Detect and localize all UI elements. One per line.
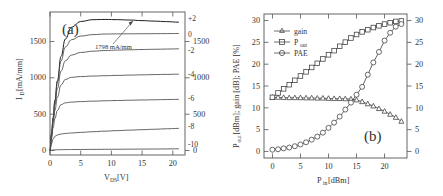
panel-a-annotation: 1798 mA/mm xyxy=(95,43,133,50)
panel-b: 0 5 10 15 20 051015202530 051015202530 g… xyxy=(222,0,443,196)
curve-label-vgs-minus10: -10 xyxy=(188,140,198,149)
circle-marker xyxy=(276,147,281,152)
panel-b-yticklabel-right-2: 10 xyxy=(415,104,423,113)
curve-label-vgs-minus4: -4 xyxy=(188,70,195,79)
square-marker xyxy=(343,40,348,45)
panel-a-xaxis-label: V DS [V] xyxy=(104,173,129,183)
panel-b-yaxis-p: P xyxy=(232,143,241,148)
square-marker xyxy=(270,95,275,100)
panel-a-label: (a) xyxy=(62,21,79,38)
panel-a-xtick-4: 20 xyxy=(169,159,177,168)
panel-a-xtick-1: 5 xyxy=(79,159,83,168)
panel-b-yaxis-rest: [dBm]; gain [dB]; PAE [%] xyxy=(232,44,241,134)
panel-b-xtick-4: 20 xyxy=(380,162,388,171)
square-marker xyxy=(360,30,365,35)
panel-b-yticklabel-left-4: 20 xyxy=(252,60,260,69)
panel-a-ytick-1: 500 xyxy=(34,110,46,119)
square-marker xyxy=(287,82,292,87)
circle-marker xyxy=(399,22,404,27)
circle-marker xyxy=(360,84,365,89)
square-marker xyxy=(377,23,382,28)
circle-marker xyxy=(326,125,331,130)
panel-b-yticklabel-left-0: 0 xyxy=(256,147,260,156)
panel-b-yticklabel-right-6: 30 xyxy=(415,16,423,25)
legend-label-pout: P xyxy=(294,38,298,47)
square-marker xyxy=(354,32,359,37)
panel-a-ytick-right-1: 500 xyxy=(193,110,205,119)
curve-label-vgs-0: 0 xyxy=(188,30,192,39)
square-marker xyxy=(293,78,298,83)
panel-b-xtick-1: 5 xyxy=(298,162,302,171)
circle-marker xyxy=(348,100,353,105)
panel-b-xaxis-main: P xyxy=(317,176,322,185)
square-marker xyxy=(326,53,331,58)
square-marker xyxy=(309,65,314,70)
panel-b-yticklabel-right-3: 15 xyxy=(415,82,423,91)
panel-a-yaxis-unit: [mA/mm] xyxy=(15,58,24,91)
circle-marker xyxy=(382,38,387,43)
panel-a-xaxis-unit: [V] xyxy=(117,173,129,182)
square-marker xyxy=(365,27,370,32)
square-marker xyxy=(349,36,354,41)
square-marker xyxy=(332,48,337,53)
panel-a-ytick-3: 1500 xyxy=(30,37,46,46)
panel-a-yaxis-sub: D xyxy=(19,91,25,95)
circle-marker xyxy=(365,72,370,77)
circle-marker xyxy=(298,142,303,147)
panel-b-yaxis-p-sub: out xyxy=(236,135,242,143)
circle-marker xyxy=(292,144,297,149)
panel-a: 0 5 10 15 20 0 500 1000 1500 xyxy=(0,0,222,196)
panel-b-xtick-0: 0 xyxy=(270,162,274,171)
panel-b-yticklabel-left-5: 25 xyxy=(252,38,260,47)
panel-b-yticklabel-left-1: 5 xyxy=(256,125,260,134)
panel-a-canvas: 0 5 10 15 20 0 500 1000 1500 xyxy=(0,0,222,196)
panel-a-ytick-0: 0 xyxy=(42,146,46,155)
circle-marker xyxy=(304,140,309,145)
circle-marker xyxy=(270,147,275,152)
panel-a-xtick-0: 0 xyxy=(48,159,52,168)
circle-marker xyxy=(309,137,314,142)
panel-a-xtick-2: 10 xyxy=(107,159,115,168)
panel-b-label: (b) xyxy=(364,128,382,145)
legend-label-pout-sub: out xyxy=(300,42,308,48)
square-marker xyxy=(337,44,342,49)
curve-label-vgs-minus8: -8 xyxy=(188,122,195,131)
panel-b-yticklabel-left-3: 15 xyxy=(252,82,260,91)
square-marker xyxy=(388,20,393,25)
circle-marker xyxy=(281,146,286,151)
panel-a-ytick-2: 1000 xyxy=(30,73,46,82)
square-marker xyxy=(298,74,303,79)
panel-b-xaxis-sub: in xyxy=(323,180,328,186)
panel-a-ytick-right-3: 1500 xyxy=(193,37,209,46)
figure-container: 0 5 10 15 20 0 500 1000 1500 xyxy=(0,0,443,196)
square-marker xyxy=(315,61,320,66)
panel-b-xtick-3: 15 xyxy=(352,162,360,171)
panel-a-ytick-right-2: 1000 xyxy=(193,73,209,82)
circle-marker xyxy=(354,92,359,97)
square-marker xyxy=(304,70,309,75)
curve-label-vgs-minus2: -2 xyxy=(188,46,195,55)
panel-b-yaxis-label: P out [dBm]; gain [dB]; PAE [%] xyxy=(232,44,242,148)
square-marker xyxy=(276,91,281,96)
panel-b-yticklabel-left-2: 10 xyxy=(252,104,260,113)
panel-b-yticklabel-left-6: 30 xyxy=(252,16,260,25)
legend-label-pae: PAE xyxy=(294,49,308,58)
circle-marker xyxy=(320,130,325,135)
square-marker xyxy=(382,22,387,27)
panel-b-yticklabel-right-0: 0 xyxy=(415,147,419,156)
circle-marker xyxy=(376,49,381,54)
circle-marker xyxy=(388,30,393,35)
circle-marker xyxy=(371,60,376,65)
panel-b-xtick-2: 10 xyxy=(324,162,332,171)
panel-b-yticklabel-right-1: 5 xyxy=(415,125,419,134)
circle-marker xyxy=(343,107,348,112)
circle-marker xyxy=(337,114,342,119)
circle-marker xyxy=(393,24,398,29)
circle-marker xyxy=(315,134,320,139)
panel-b-xaxis-unit: [dBm] xyxy=(328,176,350,185)
curve-label-vgs-minus6: -6 xyxy=(188,94,195,103)
circle-marker xyxy=(332,120,337,125)
square-marker xyxy=(371,25,376,30)
circle-marker xyxy=(287,145,292,150)
square-marker xyxy=(281,87,286,92)
